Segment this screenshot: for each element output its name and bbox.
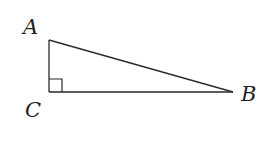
triangle-diagram: A B C	[0, 0, 269, 141]
vertex-label-c: C	[25, 98, 41, 122]
vertex-label-b: B	[240, 82, 256, 106]
vertex-label-a: A	[21, 15, 38, 39]
right-angle-marker	[49, 79, 62, 92]
edge-ab	[49, 40, 233, 92]
